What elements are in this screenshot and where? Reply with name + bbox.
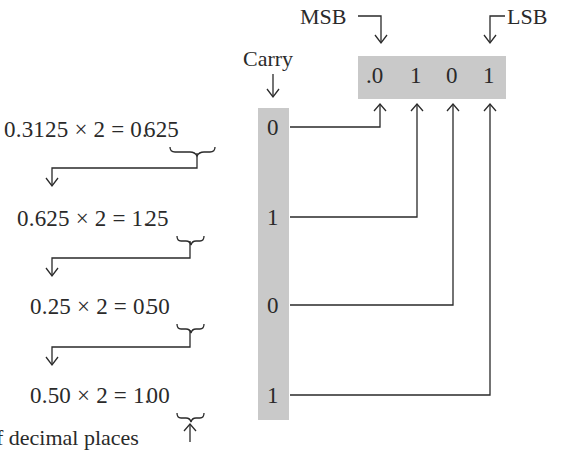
multiplicand: 0.25: [30, 294, 71, 319]
equals-sign: =: [114, 383, 127, 408]
step-1-equation: 0.3125 × 2 = 0.625: [4, 117, 179, 143]
fraction-part: 00: [147, 383, 170, 408]
times-sign: ×: [77, 294, 90, 319]
multiplicand: 0.50: [30, 383, 71, 408]
carry-digit-3: 0: [267, 293, 279, 319]
result-digit-1: .0: [366, 63, 383, 89]
times-sign: ×: [76, 206, 89, 231]
equals-sign: =: [111, 117, 124, 142]
times-sign: ×: [74, 117, 87, 142]
result-digit-4: 1: [483, 63, 495, 89]
multiplier: 2: [94, 117, 106, 142]
carry-digit-1: 0: [267, 115, 279, 141]
multiplier: 2: [96, 383, 108, 408]
footnote-text: f decimal places: [0, 425, 139, 451]
fraction-part: 25: [145, 206, 168, 231]
underbrace-2: [177, 236, 204, 245]
lsb-label: LSB: [507, 4, 547, 30]
equals-sign: =: [114, 294, 127, 319]
carry-digit-4: 1: [267, 383, 279, 409]
fraction-part: 50: [147, 294, 170, 319]
result-digit-2: 1: [410, 63, 422, 89]
step-2-equation: 0.625 × 2 = 1.25: [17, 206, 169, 232]
result-digit-3: 0: [446, 63, 458, 89]
step-4-equation: 0.50 × 2 = 1.00: [30, 383, 170, 409]
times-sign: ×: [77, 383, 90, 408]
multiplier: 2: [96, 294, 108, 319]
multiplier: 2: [95, 206, 107, 231]
multiplicand: 0.3125: [4, 117, 68, 142]
underbrace-4: [177, 413, 204, 422]
carry-label: Carry: [243, 46, 293, 72]
lsb-pointer: [490, 16, 505, 42]
msb-label: MSB: [300, 4, 346, 30]
underbrace-3: [177, 324, 204, 333]
multiplicand: 0.625: [17, 206, 70, 231]
carry-digit-2: 1: [267, 205, 279, 231]
step-3-equation: 0.25 × 2 = 0.50: [30, 294, 170, 320]
equals-sign: =: [112, 206, 125, 231]
underbrace-1: [170, 147, 215, 156]
fraction-part: 625: [144, 117, 179, 142]
